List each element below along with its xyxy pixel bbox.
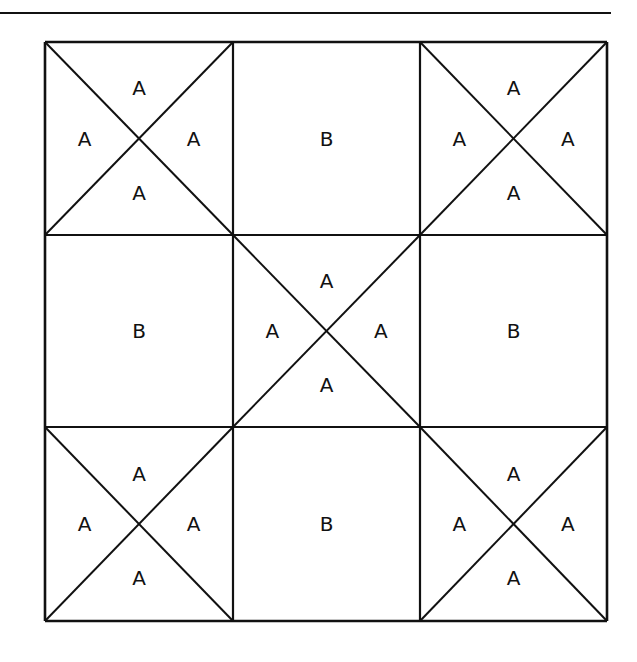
patch-label-bottom: A [320,373,334,397]
patch-label-left: A [78,512,92,536]
patch-label-left: A [452,512,466,536]
patch-label-right: A [187,512,201,536]
patch-label-left: A [452,127,466,151]
patch-label-right: A [374,319,388,343]
quilt-block-diagram: AAAABAAAABAAAABAAAABAAAA [0,0,637,662]
patch-label-right: A [561,127,575,151]
patch-label-top: A [507,76,521,100]
patch-label-bottom: A [507,181,521,205]
patch-label-left: A [78,127,92,151]
patch-label-top: A [132,462,146,486]
patch-label-bottom: A [507,566,521,590]
patch-label-left: A [265,319,279,343]
patch-label-top: A [507,462,521,486]
patch-label-center: B [320,512,334,536]
patch-label-right: A [187,127,201,151]
patch-label-center: B [507,319,521,343]
patch-label-right: A [561,512,575,536]
patch-label-bottom: A [132,566,146,590]
patch-label-top: A [320,269,334,293]
patch-label-center: B [132,319,146,343]
patch-label-bottom: A [132,181,146,205]
patch-label-center: B [320,127,334,151]
patch-label-top: A [132,76,146,100]
